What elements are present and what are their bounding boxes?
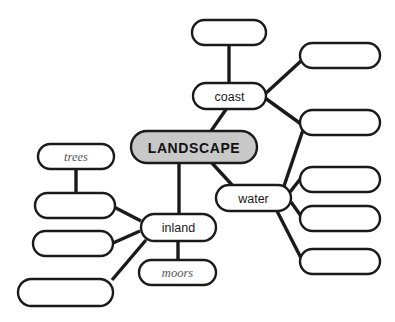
node-label-trees: trees <box>64 150 88 164</box>
connector-inland-to-blank-inland-left-1 <box>114 207 141 221</box>
connector-inland-to-blank-inland-left-2 <box>113 231 140 243</box>
connector-landscape-to-coast <box>211 108 227 131</box>
node-coast[interactable]: coast <box>193 83 266 109</box>
connector-landscape-to-water <box>211 162 233 186</box>
node-blank-coast-water-shared[interactable] <box>300 110 380 135</box>
node-label-inland: inland <box>162 221 195 235</box>
node-blank-coast-top[interactable] <box>192 20 266 45</box>
node-blank-water-right-1[interactable] <box>300 167 380 192</box>
connector-water-to-blank-water-right-3 <box>277 211 301 258</box>
node-shape-blank-inland-left-3[interactable] <box>18 279 113 306</box>
node-water[interactable]: water <box>216 185 291 211</box>
node-shape-blank-coast-right-1[interactable] <box>300 43 380 68</box>
node-blank-coast-right-1[interactable] <box>300 43 380 68</box>
connector-coast-to-blank-coast-water-shared <box>265 98 301 124</box>
node-shape-blank-water-right-2[interactable] <box>300 206 380 231</box>
node-trees[interactable]: trees <box>38 144 114 169</box>
node-blank-inland-left-1[interactable] <box>35 193 115 218</box>
node-blank-water-right-2[interactable] <box>300 206 380 231</box>
node-label-moors: moors <box>162 266 193 280</box>
connector-water-to-blank-water-right-2 <box>291 202 301 216</box>
node-blank-water-right-3[interactable] <box>300 249 380 274</box>
node-blank-inland-left-2[interactable] <box>33 231 113 256</box>
node-label-water: water <box>237 192 269 206</box>
node-layer: LANDSCAPEcoastwaterinlandtreesmoors <box>18 20 380 306</box>
mind-map-canvas: LANDSCAPEcoastwaterinlandtreesmoors <box>0 0 395 322</box>
node-shape-blank-inland-left-2[interactable] <box>33 231 113 256</box>
node-shape-blank-coast-water-shared[interactable] <box>300 110 380 135</box>
node-blank-inland-left-3[interactable] <box>18 279 113 306</box>
node-label-landscape: LANDSCAPE <box>148 140 241 156</box>
node-shape-blank-water-right-1[interactable] <box>300 167 380 192</box>
node-label-coast: coast <box>215 90 245 104</box>
mind-map-diagram: LANDSCAPEcoastwaterinlandtreesmoors <box>0 0 395 322</box>
connector-coast-to-blank-coast-right-1 <box>265 61 301 94</box>
node-shape-blank-inland-left-1[interactable] <box>35 193 115 218</box>
node-shape-blank-coast-top[interactable] <box>192 20 266 45</box>
node-landscape[interactable]: LANDSCAPE <box>131 131 257 163</box>
node-shape-blank-water-right-3[interactable] <box>300 249 380 274</box>
node-inland[interactable]: inland <box>141 214 216 241</box>
node-moors[interactable]: moors <box>139 260 216 285</box>
